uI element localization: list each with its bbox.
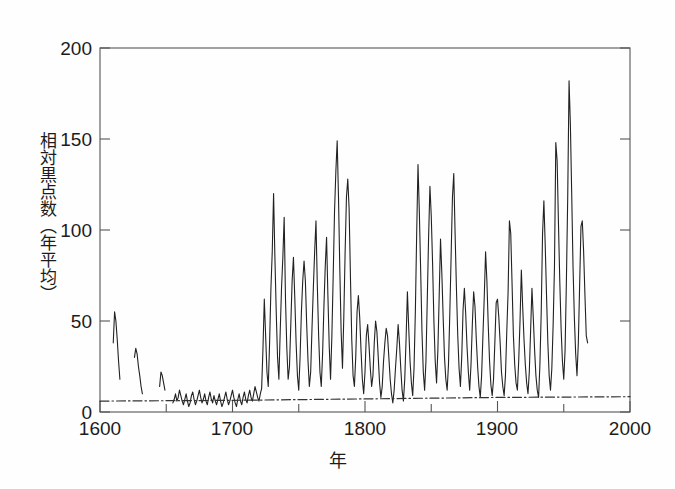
series-path-1645-1650-fragment xyxy=(160,372,165,390)
baseline-reference-line xyxy=(100,397,630,401)
plot-canvas xyxy=(0,0,675,489)
series-path-1655-1985-continuous-record xyxy=(173,81,588,407)
sunspot-number-figure: 相対黒点数（年平均） 200 150 100 50 0 1600 1700 18… xyxy=(0,0,675,489)
series-path-1610-1615-fragment xyxy=(113,312,120,379)
series-path-1626-1632-fragment xyxy=(134,348,142,394)
x-axis-ticks xyxy=(100,401,630,412)
series-path-reference-line xyxy=(100,397,630,401)
sunspot-series-line xyxy=(113,81,587,407)
